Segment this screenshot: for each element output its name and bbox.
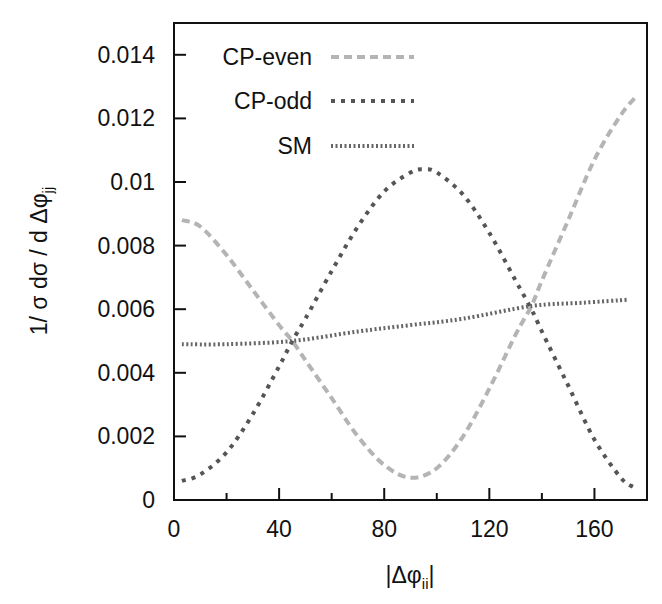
y-tick-label: 0.002: [97, 423, 155, 449]
legend-item-cp-odd: CP-odd: [234, 88, 414, 114]
x-axis-label-main: |Δφ: [386, 562, 422, 588]
x-tick-label: 80: [371, 516, 397, 542]
x-axis-label-close: |: [428, 562, 434, 588]
legend: CP-evenCP-oddSM: [223, 44, 414, 159]
y-tick-label: 0.006: [97, 296, 155, 322]
x-axis-label-sub: ii: [422, 575, 429, 592]
y-tick-label: 0.01: [110, 169, 155, 195]
series-cp-odd-line: [182, 169, 634, 487]
y-axis-label: 1/ σ dσ / d Δφjj: [26, 187, 56, 335]
x-tick-label: 40: [266, 516, 292, 542]
legend-label: CP-odd: [234, 88, 312, 114]
x-axis: 04080120160: [168, 488, 614, 542]
x-tick-label: 0: [168, 516, 181, 542]
x-axis-label: |Δφii|: [386, 562, 435, 592]
y-axis: 00.0020.0040.0060.0080.010.0120.014: [97, 42, 186, 513]
legend-item-cp-even: CP-even: [223, 44, 414, 70]
y-axis-label-sub: jj: [39, 187, 56, 195]
y-tick-label: 0.008: [97, 233, 155, 259]
series-layer: [182, 96, 637, 487]
legend-label: CP-even: [223, 44, 312, 70]
y-axis-label-main: 1/ σ dσ / d Δφ: [26, 193, 52, 335]
y-tick-label: 0.012: [97, 105, 155, 131]
x-tick-label: 120: [470, 516, 508, 542]
y-tick-label: 0.004: [97, 360, 155, 386]
y-tick-label: 0: [142, 487, 155, 513]
chart: 00.0020.0040.0060.0080.010.0120.014 0408…: [0, 0, 662, 604]
legend-label: SM: [278, 133, 313, 159]
series-sm-line: [182, 300, 629, 345]
y-tick-label: 0.014: [97, 42, 155, 68]
legend-item-sm: SM: [278, 133, 415, 159]
x-tick-label: 160: [575, 516, 613, 542]
